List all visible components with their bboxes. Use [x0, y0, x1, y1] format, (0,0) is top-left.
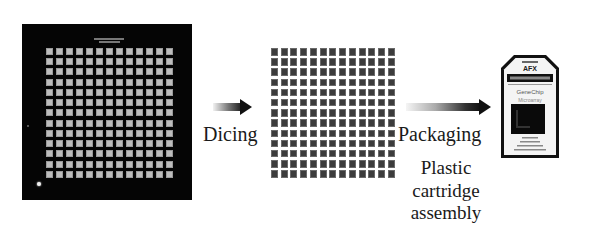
- diced-chip: [388, 99, 395, 107]
- diced-chip: [300, 99, 307, 107]
- diced-chip: [290, 48, 297, 56]
- wafer-die: [76, 120, 83, 127]
- wafer-die: [156, 58, 163, 65]
- wafer-die: [116, 150, 123, 157]
- wafer-die: [116, 79, 123, 86]
- wafer-die: [126, 120, 133, 127]
- wafer-die: [56, 150, 63, 157]
- wafer-die: [86, 140, 93, 147]
- wafer-die: [166, 89, 173, 96]
- diced-chip: [320, 99, 327, 107]
- diced-chip: [359, 140, 366, 148]
- wafer-die: [126, 109, 133, 116]
- wafer-die: [56, 140, 63, 147]
- wafer-die: [46, 150, 53, 157]
- wafer-die: [96, 140, 103, 147]
- diced-chip: [271, 99, 278, 107]
- diced-chip: [281, 68, 288, 76]
- diced-chip: [368, 58, 375, 66]
- diced-chip: [378, 109, 385, 117]
- diced-chip: [290, 130, 297, 138]
- wafer-die: [56, 48, 63, 55]
- diced-chip: [300, 89, 307, 97]
- diced-chip: [320, 48, 327, 56]
- wafer-die: [46, 48, 53, 55]
- wafer-die: [166, 130, 173, 137]
- diced-chip: [329, 140, 336, 148]
- diced-chip: [349, 160, 356, 168]
- wafer-die: [56, 130, 63, 137]
- diced-chip: [368, 160, 375, 168]
- wafer-die: [76, 109, 83, 116]
- wafer-die: [146, 120, 153, 127]
- wafer-die: [146, 109, 153, 116]
- diced-chip: [378, 130, 385, 138]
- diced-chip: [368, 79, 375, 87]
- diced-chip: [349, 68, 356, 76]
- diced-chip: [310, 109, 317, 117]
- wafer-die: [46, 161, 53, 168]
- wafer-die: [66, 171, 73, 178]
- diced-chip: [329, 109, 336, 117]
- diced-chip: [290, 170, 297, 178]
- wafer-die: [116, 99, 123, 106]
- diced-chip: [388, 160, 395, 168]
- diced-chip: [290, 79, 297, 87]
- wafer-die: [126, 79, 133, 86]
- diced-chip: [310, 58, 317, 66]
- packaging-arrow-icon: [406, 100, 492, 114]
- diced-chip: [281, 58, 288, 66]
- diced-chip: [290, 160, 297, 168]
- diced-chip: [349, 140, 356, 148]
- wafer-die: [66, 79, 73, 86]
- diced-chip: [368, 89, 375, 97]
- wafer-die: [96, 120, 103, 127]
- wafer-die: [136, 48, 143, 55]
- diced-chip: [349, 58, 356, 66]
- wafer-die: [166, 79, 173, 86]
- wafer-die: [156, 120, 163, 127]
- wafer-die: [106, 68, 113, 75]
- diced-chip: [368, 140, 375, 148]
- diced-chip: [388, 68, 395, 76]
- diced-chip: [281, 109, 288, 117]
- diced-chip: [310, 150, 317, 158]
- dicing-label: Dicing: [203, 124, 257, 144]
- wafer-die: [46, 109, 53, 116]
- diced-chip: [368, 130, 375, 138]
- wafer-die: [126, 89, 133, 96]
- wafer-die: [56, 161, 63, 168]
- diced-chip: [320, 58, 327, 66]
- wafer-die: [66, 58, 73, 65]
- wafer-die: [136, 171, 143, 178]
- diced-chip: [349, 89, 356, 97]
- diced-chip: [310, 68, 317, 76]
- wafer-die: [136, 89, 143, 96]
- diced-chip: [359, 150, 366, 158]
- diced-chip: [368, 119, 375, 127]
- wafer-die: [126, 161, 133, 168]
- wafer-die: [46, 58, 53, 65]
- wafer-die: [156, 109, 163, 116]
- diced-chip: [378, 170, 385, 178]
- wafer-die: [156, 48, 163, 55]
- diced-chip: [271, 68, 278, 76]
- wafer-die: [146, 130, 153, 137]
- diced-chip: [359, 79, 366, 87]
- packaging-label: Packaging: [398, 124, 481, 144]
- diced-chip: [339, 89, 346, 97]
- wafer-die: [86, 109, 93, 116]
- diced-chip: [300, 160, 307, 168]
- wafer-die: [56, 68, 63, 75]
- wafer-chip-grid: [46, 48, 172, 178]
- diced-chip: [310, 170, 317, 178]
- wafer-die: [76, 99, 83, 106]
- diced-chip: [329, 89, 336, 97]
- wafer-die: [96, 161, 103, 168]
- diced-chip: [290, 68, 297, 76]
- diced-chip: [378, 79, 385, 87]
- wafer-die: [106, 58, 113, 65]
- diced-chip: [339, 109, 346, 117]
- wafer-die: [106, 109, 113, 116]
- wafer-die: [106, 99, 113, 106]
